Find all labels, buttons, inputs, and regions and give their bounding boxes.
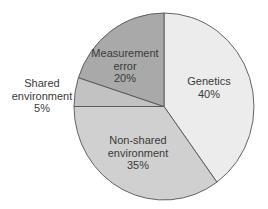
slice-label-shared-environment: Sharedenvironment5% xyxy=(12,77,73,114)
pie-chart: Genetics40%Non-sharedenvironment35%Share… xyxy=(0,0,268,209)
pie-slices xyxy=(74,13,254,200)
